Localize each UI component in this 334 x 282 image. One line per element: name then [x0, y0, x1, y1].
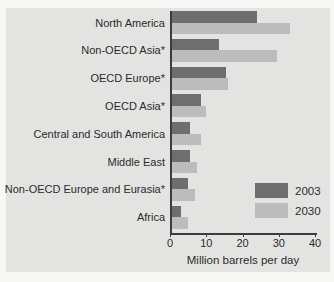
legend: 2003 2030 — [255, 183, 321, 223]
bar-2003-middle-east — [170, 150, 190, 162]
bar-2003-oecd-europe — [170, 67, 226, 79]
x-axis-line — [170, 233, 317, 235]
x-tick-label: 20 — [236, 237, 248, 249]
chart-panel: North AmericaNon-OECD Asia*OECD Europe*O… — [6, 8, 330, 272]
x-tick-label: 30 — [273, 237, 285, 249]
bar-2003-oecd-asia — [170, 94, 201, 106]
x-tick-label: 10 — [200, 237, 212, 249]
category-label: OECD Europe* — [90, 72, 165, 84]
bar-2003-africa — [170, 206, 181, 218]
bar-2030-africa — [170, 217, 188, 229]
bar-2003-non-oecd-asia — [170, 39, 219, 51]
legend-item-2030: 2030 — [255, 203, 321, 218]
bar-2030-oecd-asia — [170, 106, 206, 118]
x-tick-label: 40 — [309, 237, 321, 249]
bar-2003-non-oecd-europe-and-eurasia — [170, 178, 188, 190]
bar-2003-north-america — [170, 11, 257, 23]
bar-2030-non-oecd-europe-and-eurasia — [170, 189, 195, 201]
legend-item-2003: 2003 — [255, 183, 321, 198]
y-axis-line — [170, 11, 172, 233]
category-label: North America — [95, 17, 165, 29]
category-label: Non-OECD Asia* — [81, 44, 165, 56]
bar-2030-central-and-south-america — [170, 134, 201, 146]
legend-label-2030: 2030 — [295, 205, 321, 217]
legend-swatch-2030 — [255, 203, 288, 218]
bar-2003-central-and-south-america — [170, 122, 190, 134]
category-label: Non-OECD Europe and Eurasia* — [5, 183, 165, 195]
bar-2030-non-oecd-asia — [170, 50, 277, 62]
category-label: Africa — [137, 211, 165, 223]
category-label: Middle East — [108, 156, 165, 168]
legend-swatch-2003 — [255, 183, 288, 198]
x-axis-title: Million barrels per day — [170, 254, 316, 266]
bar-2030-oecd-europe — [170, 78, 228, 90]
legend-label-2003: 2003 — [295, 185, 321, 197]
bar-2030-middle-east — [170, 162, 197, 174]
category-label: OECD Asia* — [105, 100, 165, 112]
category-label: Central and South America — [34, 128, 165, 140]
x-tick-label: 0 — [167, 237, 173, 249]
bar-2030-north-america — [170, 23, 290, 35]
